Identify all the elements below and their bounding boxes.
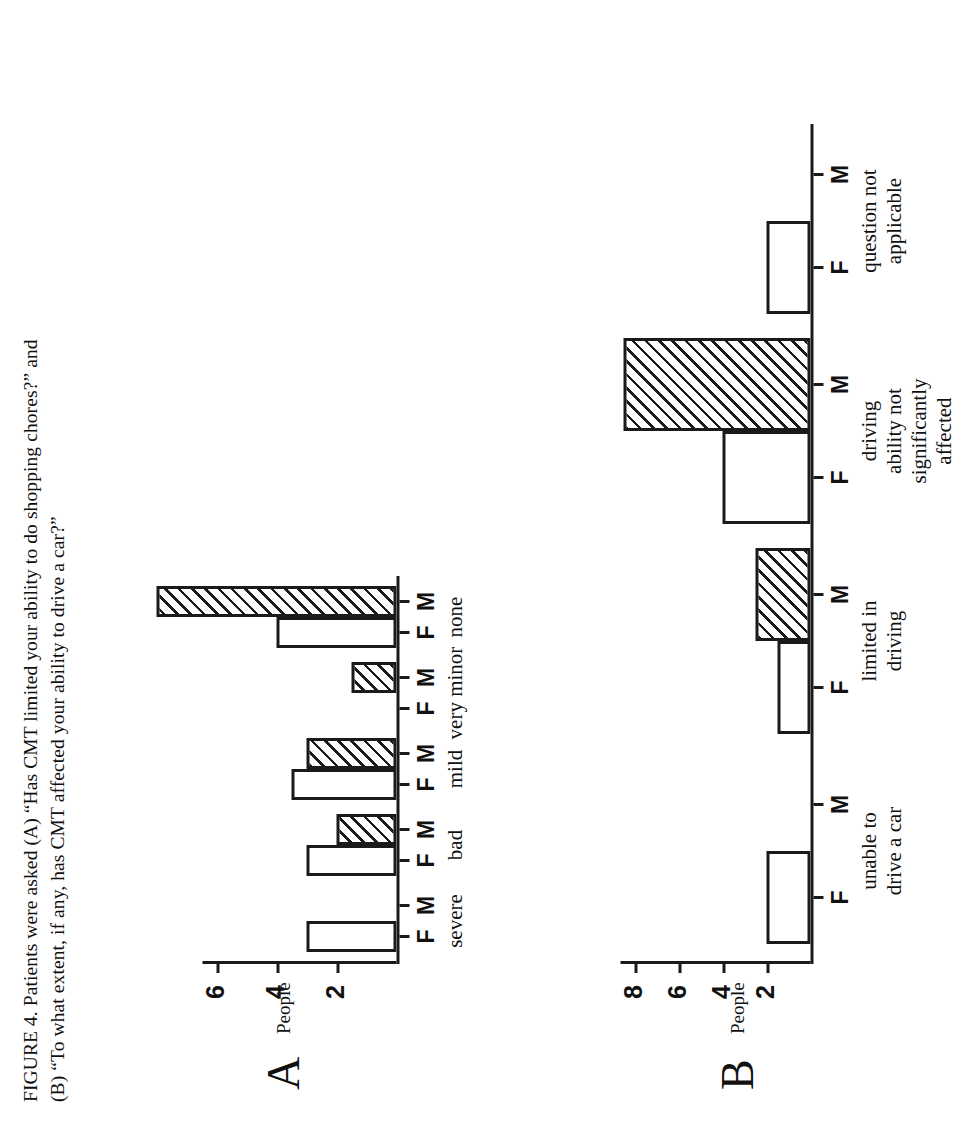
panel-a-letter: A	[256, 1057, 309, 1090]
figure-canvas: FIGURE 4. Patients were asked (A) “Has C…	[0, 0, 973, 1132]
category-label: unable to drive a car	[856, 746, 906, 956]
panel-a-plot-area: 246FMsevereFMbadFMmildFMvery minorFMnone	[96, 574, 526, 974]
bar	[755, 548, 810, 641]
x-tick	[399, 676, 409, 679]
x-tick	[399, 600, 409, 603]
bar	[291, 769, 396, 800]
gender-label: M	[412, 586, 439, 618]
y-axis-line	[202, 961, 396, 964]
x-tick	[813, 266, 823, 269]
bar	[351, 662, 396, 693]
x-tick	[399, 859, 409, 862]
x-tick	[813, 476, 823, 479]
panel-b-plot-area: 2468FMunable to drive a carFMlimited in …	[560, 114, 960, 974]
bar	[336, 814, 396, 845]
gender-label: F	[412, 693, 439, 725]
y-tick-label: 6	[200, 972, 229, 1012]
bar	[306, 845, 396, 876]
gender-label: M	[826, 579, 853, 611]
bar	[623, 338, 810, 431]
x-tick	[813, 896, 823, 899]
caption-line-2: (B) “To what extent, if any, has CMT aff…	[43, 22, 70, 1102]
panel-b: B People 2468FMunable to drive a carFMli…	[560, 92, 960, 1092]
bar	[766, 851, 810, 944]
gender-label: F	[826, 882, 853, 914]
bar	[156, 586, 396, 617]
x-tick	[399, 783, 409, 786]
bar	[276, 617, 396, 648]
gender-label: F	[826, 462, 853, 494]
category-label: none	[442, 557, 467, 677]
gender-label: F	[826, 252, 853, 284]
category-label: driving ability not significantly affect…	[856, 326, 956, 536]
y-tick-label: 2	[320, 972, 349, 1012]
figure-caption: FIGURE 4. Patients were asked (A) “Has C…	[16, 22, 70, 1102]
gender-label: M	[412, 814, 439, 846]
y-tick-label: 8	[618, 972, 647, 1012]
panel-b-letter: B	[710, 1059, 763, 1090]
gender-label: M	[826, 369, 853, 401]
y-tick-label: 2	[750, 972, 779, 1012]
panel-a: A People 246FMsevereFMbadFMmildFMvery mi…	[96, 572, 526, 1092]
gender-label: M	[412, 738, 439, 770]
gender-label: M	[826, 159, 853, 191]
gender-label: F	[412, 845, 439, 877]
gender-label: F	[826, 672, 853, 704]
bar	[306, 921, 396, 952]
x-tick	[813, 383, 823, 386]
gender-label: F	[412, 769, 439, 801]
x-tick	[813, 593, 823, 596]
bar	[777, 641, 810, 734]
y-tick-label: 4	[706, 972, 735, 1012]
gender-label: M	[826, 789, 853, 821]
x-tick	[813, 173, 823, 176]
x-tick	[813, 686, 823, 689]
x-tick	[399, 904, 409, 907]
x-tick	[399, 707, 409, 710]
category-label: limited in driving	[856, 536, 906, 746]
y-tick-label: 6	[662, 972, 691, 1012]
category-label: question not applicable	[856, 116, 906, 326]
gender-label: M	[412, 890, 439, 922]
bar	[306, 738, 396, 769]
y-tick-label: 4	[260, 972, 289, 1012]
bar	[766, 221, 810, 314]
x-tick	[399, 631, 409, 634]
x-tick	[399, 752, 409, 755]
y-axis-line	[620, 961, 810, 964]
x-tick	[399, 935, 409, 938]
gender-label: F	[412, 617, 439, 649]
bar	[722, 431, 810, 524]
x-tick	[399, 828, 409, 831]
x-tick	[813, 803, 823, 806]
gender-label: F	[412, 921, 439, 953]
caption-line-1: FIGURE 4. Patients were asked (A) “Has C…	[16, 22, 43, 1102]
gender-label: M	[412, 662, 439, 694]
